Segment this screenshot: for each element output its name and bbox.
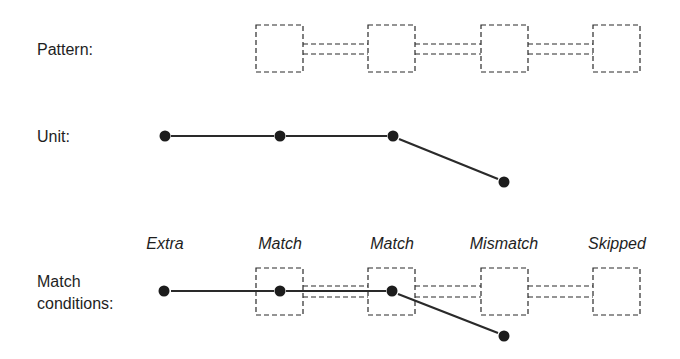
diagram-canvas <box>0 0 680 359</box>
match-conditions-row <box>159 268 641 342</box>
pattern-connectors <box>303 44 593 54</box>
pattern-box-4 <box>593 25 640 72</box>
pattern-box-3 <box>481 25 528 72</box>
pattern-row <box>256 25 640 72</box>
unit-dot-2 <box>275 131 286 142</box>
unit-dot-4 <box>499 177 510 188</box>
pattern-box-2 <box>368 25 415 72</box>
condition-box-skipped <box>593 268 640 315</box>
pattern-box-1 <box>256 25 303 72</box>
condition-dot-match-1 <box>275 286 286 297</box>
unit-dot-3 <box>388 131 399 142</box>
unit-dot-1 <box>160 131 171 142</box>
condition-dot-mismatch <box>499 331 510 342</box>
unit-row <box>160 131 510 188</box>
condition-dot-extra <box>159 286 170 297</box>
condition-box-mismatch <box>481 268 528 315</box>
condition-dot-match-2 <box>387 286 398 297</box>
